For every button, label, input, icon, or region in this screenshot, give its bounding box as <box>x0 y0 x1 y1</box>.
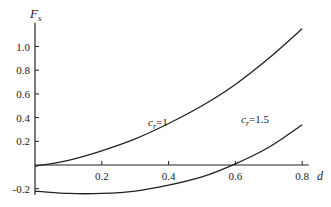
series-curve-1 <box>35 29 302 166</box>
chart: 1.00.80.60.40.2-0.20.20.40.60.8dFscr=1cr… <box>0 0 331 207</box>
x-tick-label: 0.6 <box>229 170 243 182</box>
x-tick-label: 0.8 <box>295 170 309 182</box>
y-tick-label: 0.6 <box>16 88 30 100</box>
y-tick-label: -0.2 <box>13 183 30 195</box>
x-tick-label: 0.4 <box>162 170 176 182</box>
y-tick-label: 0.2 <box>16 135 30 147</box>
y-axis-label: Fs <box>29 6 42 23</box>
y-tick-label: 0.4 <box>16 112 30 124</box>
y-tick-label: 0.8 <box>16 64 30 76</box>
x-axis-label: d <box>317 169 324 183</box>
y-tick-label: 1.0 <box>16 41 30 53</box>
x-tick-label: 0.2 <box>95 170 109 182</box>
series-label-2: cr=1.5 <box>241 113 269 128</box>
